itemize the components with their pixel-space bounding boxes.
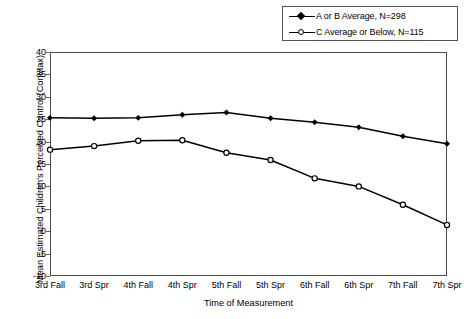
series-layer bbox=[50, 52, 447, 276]
data-point-filled-diamond bbox=[400, 133, 406, 139]
legend-entry-c-average-or-below: C Average or Below, N=115 bbox=[289, 25, 424, 39]
data-point-filled-diamond bbox=[223, 110, 229, 116]
y-axis-tick-label: 5 bbox=[26, 204, 46, 213]
data-point-open-circle bbox=[180, 138, 185, 143]
data-point-open-circle bbox=[356, 184, 361, 189]
data-point-open-circle bbox=[444, 222, 449, 227]
legend-marker-filled-diamond-icon bbox=[289, 10, 315, 22]
x-axis-tick-labels: 3rd Fall3rd Spr4th Fall4th Spr5th Fall5t… bbox=[50, 280, 447, 294]
y-axis-tick-labels: 4035302520151050-5-10 bbox=[24, 52, 46, 276]
legend-marker-open-circle-icon bbox=[289, 26, 315, 38]
data-point-open-circle bbox=[47, 147, 52, 152]
y-axis-tick-label: 40 bbox=[26, 48, 46, 57]
y-axis-tick-label: -5 bbox=[26, 249, 46, 258]
y-axis-tick-label: 35 bbox=[26, 70, 46, 79]
y-axis-tick-label: 25 bbox=[26, 115, 46, 124]
legend-label: A or B Average, N=298 bbox=[316, 11, 406, 21]
data-point-filled-diamond bbox=[356, 124, 362, 130]
series-line bbox=[50, 140, 447, 225]
y-axis-tick-mark bbox=[46, 276, 50, 277]
chart-figure: A or B Average, N=298 C Average or Below… bbox=[0, 0, 470, 319]
data-point-filled-diamond bbox=[268, 115, 274, 121]
data-point-open-circle bbox=[136, 138, 141, 143]
data-point-open-circle bbox=[312, 176, 317, 181]
y-axis-tick-label: 15 bbox=[26, 160, 46, 169]
data-point-filled-diamond bbox=[91, 115, 97, 121]
y-axis-tick-label: 20 bbox=[26, 137, 46, 146]
data-point-filled-diamond bbox=[444, 141, 450, 147]
y-axis-tick-label: 30 bbox=[26, 92, 46, 101]
series-c-average-or-below bbox=[47, 138, 449, 228]
y-axis-tick-label: 10 bbox=[26, 182, 46, 191]
data-point-open-circle bbox=[268, 157, 273, 162]
data-point-filled-diamond bbox=[135, 115, 141, 121]
y-axis-tick-label: 0 bbox=[26, 227, 46, 236]
x-axis-tick-label: 7th Spr bbox=[417, 280, 470, 291]
legend-label: C Average or Below, N=115 bbox=[316, 27, 424, 37]
data-point-open-circle bbox=[224, 150, 229, 155]
plot-area bbox=[50, 52, 447, 276]
chart-legend: A or B Average, N=298 C Average or Below… bbox=[282, 6, 458, 41]
x-axis-title: Time of Measurement bbox=[50, 298, 447, 309]
legend-entry-a-or-b-average: A or B Average, N=298 bbox=[289, 9, 406, 23]
data-point-open-circle bbox=[400, 202, 405, 207]
series-line bbox=[50, 112, 447, 143]
data-point-filled-diamond bbox=[179, 112, 185, 118]
series-a-or-b-average bbox=[47, 110, 450, 147]
data-point-filled-diamond bbox=[312, 119, 318, 125]
data-point-open-circle bbox=[92, 143, 97, 148]
